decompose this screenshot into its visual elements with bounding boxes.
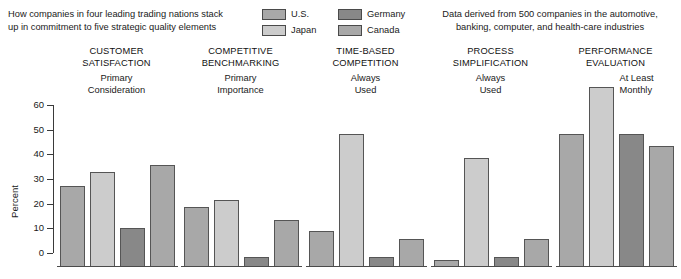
bar-group-title: CUSTOMERSATISFACTION	[57, 46, 176, 69]
bar-group-title-line1: TIME-BASED	[306, 46, 425, 58]
y-tick-label-wrap: 30	[0, 174, 44, 184]
bar-group: COMPETITIVEBENCHMARKINGPrimaryImportance	[181, 46, 300, 279]
y-tick-label: 30	[4, 174, 44, 184]
y-tick-label: 40	[4, 149, 44, 159]
y-tick-mark	[47, 105, 53, 106]
bar-group-bars	[431, 119, 550, 267]
bar-group-baseline	[57, 266, 178, 267]
bar	[649, 146, 674, 267]
bar-group-title-line1: PROCESS	[431, 46, 550, 58]
bar-group-title-line2: SATISFACTION	[57, 58, 176, 70]
bar-group: CUSTOMERSATISFACTIONPrimaryConsideration	[57, 46, 176, 279]
legend-label-canada: Canada	[367, 25, 400, 35]
bar	[90, 172, 115, 267]
bar	[524, 239, 549, 267]
bar-group-subtitle: PrimaryImportance	[181, 73, 300, 96]
bar-group-subtitle: PrimaryConsideration	[57, 73, 176, 96]
y-tick-label: 0	[4, 248, 44, 258]
bar-group-subtitle: At LeastMonthly	[616, 73, 676, 96]
legend-item-us: U.S.	[262, 9, 338, 20]
bar-group-baseline	[431, 266, 552, 267]
bar-group-subtitle: AlwaysUsed	[306, 73, 425, 96]
legend-swatch-japan	[262, 25, 286, 36]
y-tick-label-wrap: 20	[0, 199, 44, 209]
caption-left: How companies in four leading trading na…	[8, 8, 258, 34]
bar-group-subtitle-line2: Importance	[181, 85, 300, 97]
bar-group-title-line2: BENCHMARKING	[181, 58, 300, 70]
y-tick-mark	[47, 253, 53, 254]
bar-group-bars	[306, 119, 425, 267]
y-tick-label-wrap: 60	[0, 100, 44, 110]
bar	[214, 200, 239, 267]
bar-group-subtitle-line1: Primary	[57, 73, 176, 85]
bar-group-bars	[556, 119, 675, 267]
y-tick-label: 20	[4, 199, 44, 209]
chart-plot-area: Percent 6050403020100 CUSTOMERSATISFACTI…	[0, 46, 681, 279]
bar	[60, 186, 85, 267]
bar-group-baseline	[556, 266, 677, 267]
bar-group-title-line2: COMPETITION	[306, 58, 425, 70]
bar	[150, 165, 175, 267]
bar-group-baseline	[306, 266, 427, 267]
bar-group-subtitle-line1: Always	[431, 73, 550, 85]
legend-item-canada: Canada	[338, 25, 418, 36]
caption-left-line2: up in commitment to five strategic quali…	[8, 21, 258, 34]
bar-group: TIME-BASEDCOMPETITIONAlwaysUsed	[306, 46, 425, 279]
bar-group-title-line2: EVALUATION	[556, 58, 675, 70]
bar-group: PERFORMANCEEVALUATIONAt LeastMonthly	[556, 46, 675, 279]
bar	[559, 134, 584, 267]
bar-group-baseline	[181, 266, 302, 267]
y-axis-line	[53, 105, 54, 253]
bar	[399, 239, 424, 267]
y-tick-mark	[47, 179, 53, 180]
y-tick-label: 60	[4, 100, 44, 110]
bar	[274, 220, 299, 267]
y-tick-label: 50	[4, 125, 44, 135]
bar	[184, 207, 209, 267]
bar-group-title: TIME-BASEDCOMPETITION	[306, 46, 425, 69]
caption-right-line1: Data derived from 500 companies in the a…	[424, 8, 676, 21]
bar-group-title-line1: COMPETITIVE	[181, 46, 300, 58]
legend: U.S. Germany Japan Canada	[262, 6, 418, 38]
y-tick-label-wrap: 0	[0, 248, 44, 258]
bar-group-bars	[181, 119, 300, 267]
bar	[309, 231, 334, 267]
bar-group-title-line2: SIMPLIFICATION	[431, 58, 550, 70]
bar-group-title: PROCESSSIMPLIFICATION	[431, 46, 550, 69]
bar-group-subtitle-line2: Used	[431, 85, 550, 97]
bar	[120, 228, 145, 267]
bar	[589, 87, 614, 267]
caption-left-line1: How companies in four leading trading na…	[8, 8, 258, 21]
bar-group-subtitle-line2: Monthly	[620, 85, 676, 97]
legend-swatch-canada	[338, 25, 362, 36]
bar	[619, 134, 644, 267]
y-tick-mark	[47, 204, 53, 205]
bar-group-subtitle-line2: Consideration	[57, 85, 176, 97]
legend-label-us: U.S.	[291, 9, 309, 19]
bar-group-subtitle-line1: At Least	[620, 73, 676, 85]
y-tick-mark	[47, 154, 53, 155]
bar-group-bars	[57, 119, 176, 267]
bar	[339, 134, 364, 267]
legend-swatch-us	[262, 9, 286, 20]
y-tick-label-wrap: 40	[0, 149, 44, 159]
chart-header: How companies in four leading trading na…	[0, 0, 681, 46]
bar-group: PROCESSSIMPLIFICATIONAlwaysUsed	[431, 46, 550, 279]
bar-group-subtitle-line2: Used	[306, 85, 425, 97]
caption-right: Data derived from 500 companies in the a…	[424, 8, 676, 34]
y-tick-label-wrap: 10	[0, 223, 44, 233]
y-tick-label-wrap: 50	[0, 125, 44, 135]
bar-group-subtitle: AlwaysUsed	[431, 73, 550, 96]
legend-item-japan: Japan	[262, 25, 338, 36]
bar	[464, 158, 489, 267]
legend-swatch-germany	[338, 9, 362, 20]
bar-group-title: COMPETITIVEBENCHMARKING	[181, 46, 300, 69]
bar-group-title: PERFORMANCEEVALUATION	[556, 46, 675, 69]
legend-item-germany: Germany	[338, 9, 418, 20]
bar-group-subtitle-line1: Always	[306, 73, 425, 85]
y-tick-label: 10	[4, 223, 44, 233]
legend-label-germany: Germany	[367, 9, 405, 19]
caption-right-line2: banking, computer, and health-care indus…	[424, 21, 676, 34]
bar-group-subtitle-line1: Primary	[181, 73, 300, 85]
y-tick-mark	[47, 228, 53, 229]
